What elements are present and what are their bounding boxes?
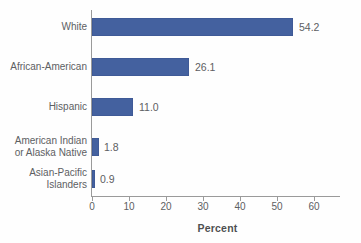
category-label-hispanic: Hispanic [49, 101, 87, 113]
x-axis-title: Percent [0, 222, 361, 234]
bar-american-indian-or-alaska-native [92, 138, 99, 156]
category-label-african-american: African-American [10, 61, 87, 73]
x-tick-label-10: 10 [123, 201, 134, 213]
bar-value-american-indian-or-alaska-native: 1.8 [104, 141, 119, 153]
bar-asian-pacific-islanders [92, 170, 95, 188]
category-label-white: White [61, 21, 87, 33]
x-tick-label-20: 20 [160, 201, 171, 213]
x-tick-label-30: 30 [197, 201, 208, 213]
bar-value-african-american: 26.1 [195, 61, 215, 73]
x-tick-label-50: 50 [271, 201, 282, 213]
x-tick-label-40: 40 [234, 201, 245, 213]
bar-hispanic [92, 98, 133, 116]
bar-value-asian-pacific-islanders: 0.9 [100, 173, 115, 185]
category-label-asian-pacific-islanders: Asian-Pacific Islanders [29, 167, 87, 190]
x-tick-label-60: 60 [308, 201, 319, 213]
category-label-american-indian-or-alaska-native: American Indian or Alaska Native [15, 135, 87, 158]
x-axis-title-text: Percent [198, 222, 238, 234]
bar-white [92, 18, 293, 36]
bar-value-white: 54.2 [299, 21, 319, 33]
bar-chart: 0 10 20 30 40 50 60 White African-Americ… [0, 0, 361, 243]
bar-african-american [92, 58, 189, 76]
x-tick-label-0: 0 [89, 201, 95, 213]
bar-value-hispanic: 11.0 [139, 101, 159, 113]
